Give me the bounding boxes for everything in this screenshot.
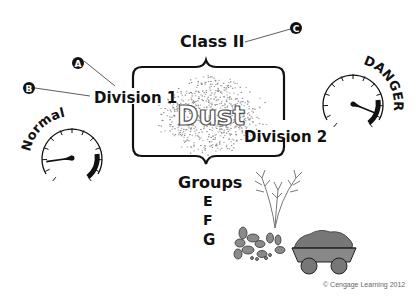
dust-particle — [251, 111, 252, 112]
dust-particle — [235, 99, 236, 100]
dust-particle — [257, 117, 258, 118]
dust-particle — [229, 133, 230, 134]
dust-particle — [198, 149, 199, 150]
gauge-normal-label: Normal — [18, 105, 66, 153]
dust-particle — [198, 92, 199, 93]
dust-particle — [210, 84, 211, 85]
division-1-label: Division 1 — [94, 89, 177, 107]
dust-particle — [248, 106, 249, 107]
dust-particle — [211, 157, 212, 158]
dust-particle — [229, 148, 230, 149]
dust-particle — [206, 131, 207, 132]
dust-particle — [249, 124, 250, 125]
dust-particle — [200, 138, 201, 139]
dust-particle — [223, 137, 224, 138]
dust-particle — [229, 79, 230, 80]
dust-particle — [220, 92, 221, 93]
dust-particle — [162, 120, 163, 121]
dust-particle — [221, 85, 222, 86]
dust-particle — [207, 155, 208, 156]
dust-particle — [247, 104, 248, 105]
dust-particle — [241, 92, 242, 93]
dust-particle — [220, 135, 221, 136]
dust-particle — [252, 108, 253, 109]
dust-particle — [220, 149, 221, 150]
dust-particle — [206, 92, 207, 93]
dust-particle — [160, 114, 161, 115]
dust-particle — [236, 98, 237, 99]
callout-b: B — [23, 82, 35, 94]
dust-particle — [259, 123, 260, 124]
dust-particle — [233, 140, 234, 141]
dust-particle — [245, 120, 246, 121]
dust-particle — [232, 88, 233, 89]
dust-particle — [228, 82, 229, 83]
dust-particle — [208, 77, 209, 78]
dust-particle — [262, 124, 263, 125]
dust-particle — [161, 126, 162, 127]
dust-particle — [211, 145, 212, 146]
dust-particle — [192, 95, 193, 96]
dust-particle — [218, 89, 219, 90]
dust-particle — [215, 84, 216, 85]
dust-particle — [253, 112, 254, 113]
gauge-tick — [50, 137, 54, 140]
dust-particle — [180, 132, 181, 133]
dust-particle — [183, 131, 184, 132]
dust-particle — [184, 133, 185, 134]
dust-particle — [178, 88, 179, 89]
dust-particle — [183, 137, 184, 138]
dust-particle — [198, 96, 199, 97]
callout-a-letter: A — [75, 59, 82, 69]
dust-particle — [204, 96, 205, 97]
dust-particle — [182, 95, 183, 96]
dust-particle — [229, 93, 230, 94]
dust-particle — [233, 147, 234, 148]
dust-particle — [203, 147, 204, 148]
dust-particle — [202, 150, 203, 151]
dust-particle — [240, 139, 241, 140]
dust-label: Dust — [177, 101, 245, 131]
dust-particle — [226, 146, 227, 147]
dust-particle — [198, 98, 199, 99]
dust-particle — [182, 134, 183, 135]
dust-particle — [216, 144, 217, 145]
dust-particle — [191, 97, 192, 98]
dust-particle — [198, 81, 199, 82]
dust-particle — [203, 77, 204, 78]
dust-particle — [231, 99, 232, 100]
dust-particle — [235, 134, 236, 135]
dust-particle — [217, 148, 218, 149]
dust-particle — [170, 110, 171, 111]
dust-particle — [198, 132, 199, 133]
dust-particle — [163, 112, 164, 113]
dust-particle — [185, 141, 186, 142]
dust-particle — [190, 79, 191, 80]
dust-particle — [195, 133, 196, 134]
callout-c-letter: C — [293, 24, 300, 34]
dust-particle — [169, 124, 170, 125]
dust-particle — [202, 90, 203, 91]
dust-particle — [201, 84, 202, 85]
dust-particle — [197, 85, 198, 86]
dust-particle — [242, 98, 243, 99]
dust-particle — [208, 136, 209, 137]
dust-particle — [182, 132, 183, 133]
dust-particle — [172, 126, 173, 127]
dust-particle — [215, 90, 216, 91]
dust-particle — [254, 109, 255, 110]
dust-particle — [211, 93, 212, 94]
dust-particle — [248, 119, 249, 120]
dust-particle — [230, 81, 231, 82]
gauge-tick — [53, 177, 56, 181]
dust-particle — [211, 141, 212, 142]
dust-particle — [193, 150, 194, 151]
dust-particle — [221, 148, 222, 149]
callout-b-line — [35, 88, 90, 96]
dust-particle — [192, 135, 193, 136]
dust-particle — [194, 93, 195, 94]
dust-particle — [235, 131, 236, 132]
dust-particle — [218, 91, 219, 92]
class-label: Class II — [180, 32, 245, 51]
dust-particle — [224, 87, 225, 88]
